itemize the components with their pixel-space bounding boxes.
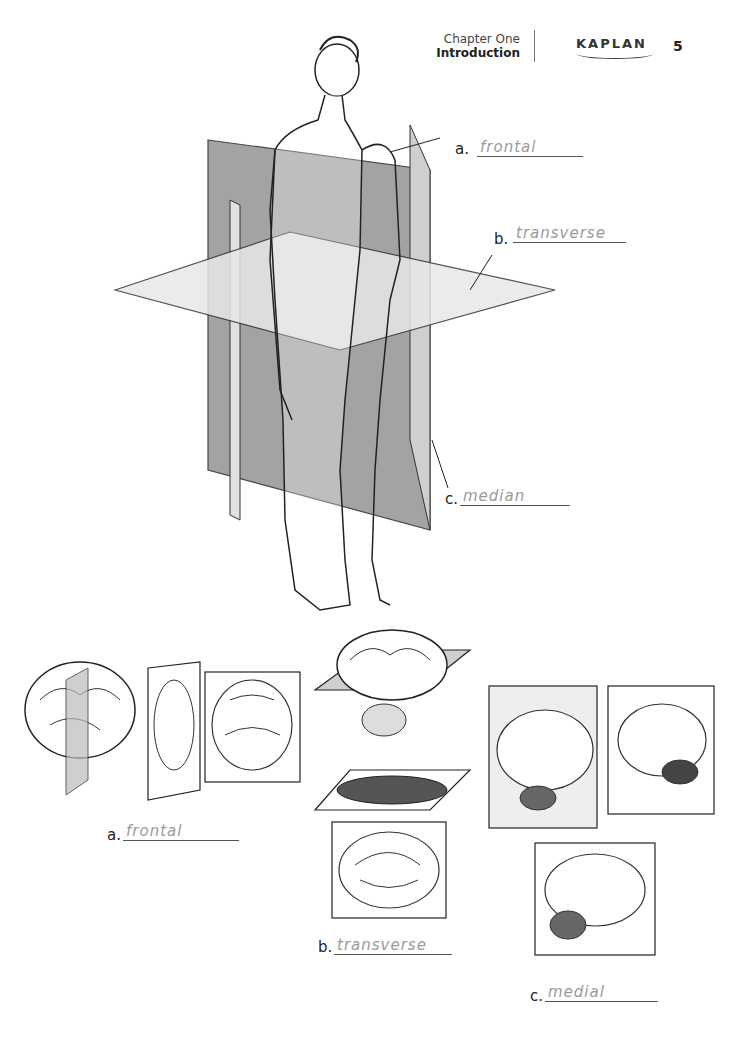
medial-brain-views [489,686,714,955]
body-answer-c[interactable]: median [460,487,570,506]
body-label-a: a. [455,140,469,158]
frontal-brain-views [25,662,300,800]
brain-label-b: b. [318,938,332,956]
body-answer-a[interactable]: frontal [477,138,583,157]
brain-label-a: a. [107,826,121,844]
body-label-b: b. [494,230,508,248]
transverse-brain-views [315,630,470,918]
body-answer-b[interactable]: transverse [513,224,626,243]
brain-answer-c[interactable]: medial [545,983,658,1002]
brain-answer-b[interactable]: transverse [334,936,452,955]
anatomy-illustrations [0,0,752,1039]
body-planes-figure [115,37,555,610]
brain-answer-a[interactable]: frontal [123,822,239,841]
body-label-c: c. [445,490,458,508]
brain-label-c: c. [530,987,543,1005]
